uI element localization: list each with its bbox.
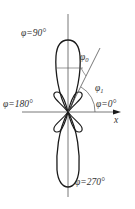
phi0-subscript: 0 (85, 56, 89, 63)
phi0-label: φ0 (80, 52, 89, 63)
phi1-subscript: 1 (100, 87, 103, 94)
x-axis-arrow-icon (113, 110, 121, 115)
phi-180-label: φ=180° (3, 99, 33, 109)
phi-90-label: φ=90° (21, 28, 46, 38)
radiation-pattern-diagram: φ=90° φ0 φ1 φ=180° φ=0° x φ=270° (0, 0, 135, 209)
phi1-angle-arc (81, 87, 95, 112)
x-axis-label: x (113, 115, 119, 125)
phi-0-label: φ=0° (96, 99, 116, 109)
phi0-arc (81, 68, 86, 76)
phi1-label: φ1 (95, 83, 104, 94)
phi-270-label: φ=270° (75, 177, 105, 187)
